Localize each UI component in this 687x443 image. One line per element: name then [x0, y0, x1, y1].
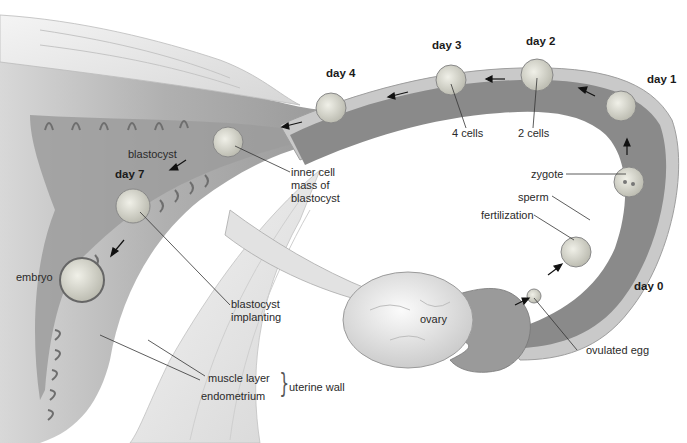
- label-day-3: day 3: [432, 39, 461, 52]
- label-ovary: ovary: [420, 313, 447, 326]
- label-muscle-layer: muscle layer: [208, 372, 270, 385]
- zygote-cell: [614, 167, 644, 197]
- label-day-0: day 0: [634, 280, 663, 293]
- blastocyst-cell: [213, 127, 243, 157]
- label-fertilization: fertilization: [481, 209, 534, 222]
- label-blastocyst: blastocyst: [128, 148, 177, 161]
- uterine-wall-brace: }: [279, 370, 289, 396]
- label-2-cells: 2 cells: [518, 127, 549, 140]
- day4-morula: [316, 93, 346, 123]
- label-4-cells: 4 cells: [452, 127, 483, 140]
- fertilized-egg-cell: [561, 237, 591, 267]
- label-sperm: sperm: [518, 191, 549, 204]
- label-day-7: day 7: [115, 168, 144, 181]
- day1-cell: [606, 91, 636, 121]
- label-zygote: zygote: [531, 168, 563, 181]
- two-cell-stage: [521, 59, 553, 91]
- label-uterine-wall: uterine wall: [289, 381, 345, 394]
- ovary: [343, 272, 473, 368]
- implanting-blastocyst: [116, 189, 150, 223]
- ovulated-egg-cell: [527, 289, 541, 303]
- label-day-1: day 1: [647, 73, 676, 86]
- label-blastocyst-implanting: blastocyst implanting: [231, 298, 281, 324]
- label-day-2: day 2: [526, 35, 555, 48]
- label-inner-cell-mass: inner cell mass of blastocyst: [291, 166, 340, 205]
- four-cell-stage: [436, 65, 466, 95]
- embryo-cell: [60, 258, 104, 302]
- label-ovulated-egg: ovulated egg: [586, 344, 649, 357]
- label-day-4: day 4: [326, 67, 355, 80]
- label-endometrium: endometrium: [201, 390, 265, 403]
- label-embryo: embryo: [16, 271, 53, 284]
